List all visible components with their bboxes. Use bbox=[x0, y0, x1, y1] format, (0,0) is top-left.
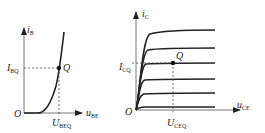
q-label-right: Q bbox=[176, 50, 184, 61]
icq-label: ICQ bbox=[118, 61, 131, 73]
origin-label-right: O bbox=[125, 106, 132, 117]
ib-axis-label: iB bbox=[27, 24, 34, 36]
uceq-label: UCEQ bbox=[167, 117, 187, 129]
bjt-characteristics-diagram: iB uBE O Q IBQ UBEQ iC uCE O Q ICQ UCEQ bbox=[0, 0, 265, 133]
q-label-left: Q bbox=[63, 62, 71, 73]
ube-axis-label: uBE bbox=[86, 107, 99, 119]
output-characteristic-plot: iC uCE O Q ICQ UCEQ bbox=[118, 8, 250, 129]
input-characteristic-plot: iB uBE O Q IBQ UBEQ bbox=[6, 24, 99, 129]
q-point-dot-right bbox=[171, 61, 175, 65]
output-curves bbox=[136, 30, 215, 110]
ibq-label: IBQ bbox=[6, 62, 19, 74]
uce-axis-label: uCE bbox=[237, 99, 250, 111]
output-curve-3 bbox=[136, 63, 215, 110]
output-curve-4 bbox=[136, 79, 215, 110]
origin-label-left: O bbox=[14, 108, 21, 119]
input-curve bbox=[24, 32, 64, 113]
output-curve-1 bbox=[136, 30, 215, 110]
ic-axis-label: iC bbox=[142, 8, 149, 20]
q-point-dot bbox=[57, 66, 61, 70]
ubeq-label: UBEQ bbox=[52, 117, 72, 129]
